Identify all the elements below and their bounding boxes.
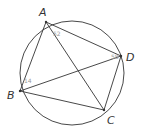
vertex-d-dot [120,55,122,57]
segment-cd [104,56,121,110]
cyclic-quadrilateral-diagram: A B C D 52 58 14 [0,0,144,133]
angle-label-a: 52 [53,30,61,37]
angle-label-d: 58 [111,53,119,60]
angle-label-b: 14 [24,77,32,84]
vertex-b-dot [19,90,21,92]
diagonal-bd [20,56,121,91]
vertex-label-d: D [126,51,134,64]
vertex-a-dot [45,21,47,23]
vertex-label-a: A [38,6,47,19]
vertex-c-dot [103,109,105,111]
vertex-label-b: B [7,89,15,102]
vertex-label-c: C [107,114,115,127]
